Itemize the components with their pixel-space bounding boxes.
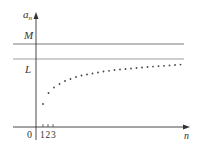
limit-label: L [24, 63, 31, 75]
y-axis-label: an [23, 8, 33, 22]
sequence-points [42, 64, 181, 105]
x-axis-arrow-icon [183, 125, 190, 130]
tick-label-2: 2 [46, 130, 51, 140]
sequence-diagram: an M L n 0 1 2 3 [0, 0, 199, 144]
tick-label-3: 3 [51, 130, 56, 140]
x-axis-label: n [184, 130, 189, 141]
upper-bound-label: M [23, 29, 34, 41]
origin-label: 0 [27, 129, 32, 140]
y-axis-arrow-icon [34, 12, 39, 19]
tick-label-1: 1 [40, 130, 45, 140]
